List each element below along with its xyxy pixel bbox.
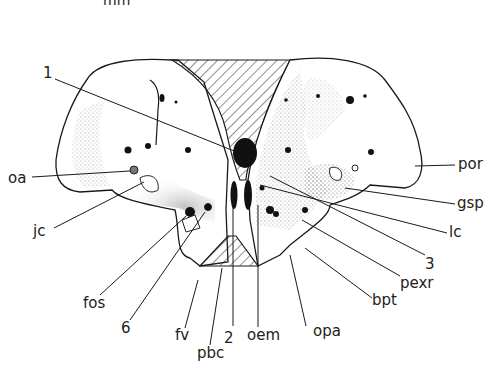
label-3: 3 [425, 257, 435, 272]
label-oem: oem [247, 328, 280, 343]
label-opa: opa [313, 324, 341, 339]
label-jc: jc [33, 224, 45, 239]
label-6: 6 [121, 321, 131, 336]
label-por: por [458, 157, 483, 172]
skull-basal-view-drawing [0, 0, 493, 379]
foramen-magnum-1 [233, 138, 257, 168]
label-lc: lc [449, 225, 461, 240]
label-oa: oa [8, 171, 26, 186]
label-fv: fv [175, 328, 189, 343]
label-bpt: bpt [372, 293, 397, 308]
label-pbc: pbc [197, 346, 224, 361]
label-fos: fos [83, 296, 105, 311]
label-gsp: gsp [457, 196, 484, 211]
left-skull-half [56, 59, 228, 266]
label-2: 2 [224, 331, 234, 346]
label-1: 1 [43, 66, 53, 81]
label-pexr: pexr [400, 276, 434, 291]
